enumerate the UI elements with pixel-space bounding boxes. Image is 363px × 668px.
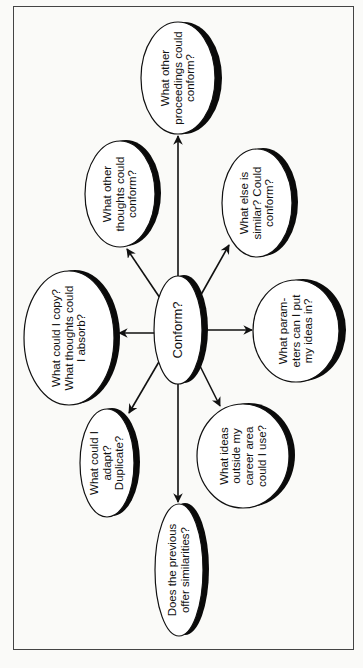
edge-similar <box>198 245 229 300</box>
node-label-thoughts: What other thoughts could conform? <box>93 148 147 240</box>
node-label-parameters: What param- eters can I put my ideas in? <box>266 288 326 374</box>
node-label-copy: What could I copy? What thoughts could I… <box>36 283 102 393</box>
edge-thoughts <box>127 249 160 298</box>
node-label-previous: Does the previous offer similarities? <box>157 512 201 628</box>
center-node-label: Conform? <box>166 290 190 370</box>
edge-outside <box>198 362 220 406</box>
node-label-adapt: What could I adapt? Duplicate? <box>82 418 132 508</box>
node-label-outside: What ideas outside my career area could … <box>208 412 278 500</box>
node-label-similar: What else is similar? Could conform? <box>230 156 284 250</box>
edge-adapt <box>129 360 160 413</box>
node-label-proceedings: What other proceedings could conform? <box>150 30 206 126</box>
